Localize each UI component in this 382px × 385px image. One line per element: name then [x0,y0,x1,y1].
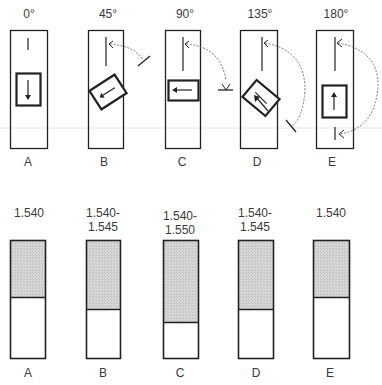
angle-label-b: 45° [78,7,138,21]
slide-e-180deg [317,31,379,149]
letter-label-top-b: B [74,155,134,169]
letter-label-top-c: C [152,155,212,169]
tube-a [10,241,46,359]
letter-label-bottom-a: A [0,366,58,380]
angle-label-d: 135° [230,7,290,21]
diagram-canvas [0,0,382,385]
letter-label-bottom-c: C [150,366,210,380]
tube-d [238,241,274,359]
letter-label-bottom-e: E [300,366,360,380]
letter-label-bottom-b: B [73,366,133,380]
value-label-e: 1.540 [301,206,361,220]
angle-label-a: 0° [0,7,59,21]
value-label-a: 1.540 [0,206,59,220]
value-label-b: 1.540- 1.545 [73,206,133,234]
letter-label-bottom-d: D [226,366,286,380]
tube-c [163,241,199,359]
letter-label-top-d: D [227,155,287,169]
angle-label-c: 90° [155,7,215,21]
angle-label-e: 180° [306,7,366,21]
tube-e [313,241,350,359]
slide-b-45deg [89,31,151,149]
tube-b [86,241,121,359]
value-label-c: 1.540- 1.550 [150,209,210,237]
letter-label-top-a: A [0,155,58,169]
slide-a-0deg [11,31,48,149]
value-label-d: 1.540- 1.545 [225,206,285,234]
slide-d-135deg [241,31,306,149]
slide-c-90deg [166,31,234,149]
letter-label-top-e: E [302,155,362,169]
